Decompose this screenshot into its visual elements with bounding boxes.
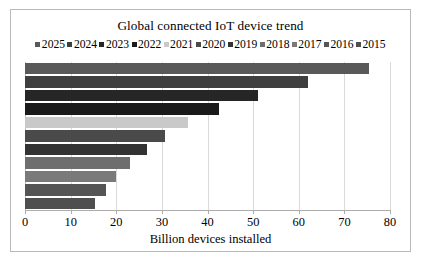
legend-swatch-icon	[132, 42, 137, 47]
legend-item-2015[interactable]: 2015	[356, 38, 386, 51]
x-axis-title: Billion devices installed	[11, 232, 410, 247]
legend-swatch-icon	[164, 42, 169, 47]
x-tick-40	[208, 210, 209, 214]
x-tick-20	[116, 210, 117, 214]
bar-fill	[25, 76, 308, 87]
bar-fill	[25, 198, 95, 209]
bar-fill	[25, 171, 116, 182]
bar-2021[interactable]	[25, 117, 188, 128]
legend-swatch-icon	[196, 42, 201, 47]
x-tick-label-50: 50	[247, 215, 259, 230]
bar-2017[interactable]	[25, 171, 116, 182]
bar-2025[interactable]	[25, 63, 369, 74]
legend-item-2018[interactable]: 2018	[260, 38, 290, 51]
x-axis-ticks	[25, 210, 390, 214]
bar-fill	[25, 117, 188, 128]
bar-fill	[25, 157, 130, 168]
legend-label: 2021	[170, 38, 193, 51]
legend-item-2019[interactable]: 2019	[228, 38, 258, 51]
bar-fill	[25, 184, 106, 195]
legend-label: 2023	[106, 38, 129, 51]
chart-legend: 2025202420232022202120202019201820172016…	[11, 38, 410, 51]
x-tick-80	[390, 210, 391, 214]
legend-item-2022[interactable]: 2022	[132, 38, 162, 51]
legend-label: 2015	[362, 38, 385, 51]
bar-series-container	[25, 62, 390, 210]
chart-title: Global connected IoT device trend	[11, 18, 410, 34]
legend-item-2021[interactable]: 2021	[164, 38, 194, 51]
bar-fill	[25, 144, 147, 155]
legend-swatch-icon	[99, 42, 104, 47]
bar-2020[interactable]	[25, 130, 165, 141]
legend-label: 2017	[298, 38, 321, 51]
bar-fill	[25, 63, 369, 74]
legend-swatch-icon	[35, 42, 40, 47]
legend-label: 2018	[266, 38, 289, 51]
legend-swatch-icon	[67, 42, 72, 47]
bar-2018[interactable]	[25, 157, 130, 168]
legend-swatch-icon	[356, 42, 361, 47]
legend-swatch-icon	[292, 42, 297, 47]
x-tick-label-0: 0	[22, 215, 28, 230]
x-tick-label-30: 30	[156, 215, 168, 230]
legend-item-2025[interactable]: 2025	[35, 38, 65, 51]
legend-label: 2024	[74, 38, 97, 51]
x-tick-label-80: 80	[384, 215, 396, 230]
plot-area	[25, 62, 390, 210]
legend-label: 2019	[234, 38, 257, 51]
legend-label: 2022	[138, 38, 161, 51]
x-tick-label-10: 10	[64, 215, 76, 230]
legend-swatch-icon	[324, 42, 329, 47]
bar-2016[interactable]	[25, 184, 106, 195]
x-tick-10	[71, 210, 72, 214]
x-axis-tick-labels: 01020304050607080	[25, 215, 390, 231]
legend-label: 2025	[42, 38, 65, 51]
x-tick-label-60: 60	[293, 215, 305, 230]
gridline-80	[390, 62, 391, 210]
x-tick-label-20: 20	[110, 215, 122, 230]
x-tick-label-70: 70	[338, 215, 350, 230]
bar-2023[interactable]	[25, 90, 258, 101]
x-tick-label-40: 40	[201, 215, 213, 230]
legend-item-2023[interactable]: 2023	[99, 38, 129, 51]
chart-frame: Global connected IoT device trend 202520…	[10, 9, 411, 252]
legend-item-2017[interactable]: 2017	[292, 38, 322, 51]
x-tick-70	[344, 210, 345, 214]
legend-swatch-icon	[260, 42, 265, 47]
legend-label: 2016	[330, 38, 353, 51]
bar-fill	[25, 103, 219, 114]
bar-2022[interactable]	[25, 103, 219, 114]
bar-fill	[25, 130, 165, 141]
legend-item-2020[interactable]: 2020	[196, 38, 226, 51]
legend-item-2016[interactable]: 2016	[324, 38, 354, 51]
legend-swatch-icon	[228, 42, 233, 47]
bar-2024[interactable]	[25, 76, 308, 87]
x-tick-0	[25, 210, 26, 214]
legend-item-2024[interactable]: 2024	[67, 38, 97, 51]
x-tick-60	[299, 210, 300, 214]
legend-label: 2020	[202, 38, 225, 51]
bar-2019[interactable]	[25, 144, 147, 155]
x-tick-50	[253, 210, 254, 214]
bar-fill	[25, 90, 258, 101]
bar-2015[interactable]	[25, 198, 95, 209]
x-tick-30	[162, 210, 163, 214]
